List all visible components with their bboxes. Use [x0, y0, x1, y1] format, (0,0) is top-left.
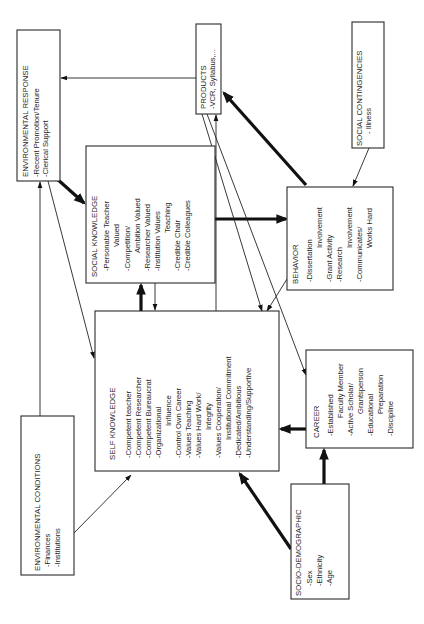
- node-title: PRODUCTS: [199, 65, 208, 109]
- node-item: Institutional Commitment: [224, 356, 233, 440]
- node-item: -Personable Teacher: [102, 201, 111, 271]
- node-item: -Organizational: [154, 406, 163, 458]
- node-item: -Research: [335, 247, 344, 282]
- node-item: Integrity: [204, 403, 213, 430]
- node-item: -Dedicated/Ambitious: [234, 386, 243, 458]
- node-item: Teaching: [163, 203, 172, 233]
- node-title: ENVIRONMENTAL RESPONSE: [21, 65, 30, 177]
- node-item: -Competent teacher: [124, 390, 133, 458]
- node-item: Faculty Member: [336, 363, 345, 418]
- node-item: -Educational: [366, 393, 375, 436]
- node-item: -Communicates/: [355, 226, 364, 282]
- node-environmental-conditions: ENVIRONMENTAL CONDITIONS -Finances -Inst…: [21, 416, 74, 575]
- node-item: -Competition/: [123, 225, 132, 271]
- node-item: -Competent Bureaucrat: [144, 378, 153, 458]
- node-item: -Ethnicity: [315, 555, 324, 586]
- node-self-knowledge: SELF KNOWLEDGE -Competent teacher -Compe…: [95, 311, 279, 471]
- node-item: -Discipline: [386, 401, 395, 436]
- node-item: Valued: [112, 224, 121, 247]
- node-item: Involvement: [315, 206, 324, 248]
- node-item: -Control Own Career: [174, 387, 183, 458]
- node-item: -Values Teaching: [184, 400, 193, 458]
- arrow-behavior-to-self-knowledge: [267, 279, 287, 311]
- node-title: BEHAVIOR: [291, 244, 300, 284]
- node-environmental-response: ENVIRONMENTAL RESPONSE -Recent Promotion…: [17, 30, 60, 181]
- node-item: - Illness: [364, 108, 373, 134]
- node-title: SELF KNOWLEDGE: [108, 388, 117, 460]
- node-behavior: BEHAVIOR -Dissertation Involvement -Gran…: [287, 187, 393, 290]
- model-diagram: ENVIRONMENTAL RESPONSE -Recent Promotion…: [0, 0, 424, 624]
- node-title: SOCIAL KNOWLEDGE: [90, 196, 99, 277]
- node-item: -Active Scholar/: [346, 382, 355, 436]
- node-item: -Grant Activity: [325, 235, 334, 282]
- arrow-env-response-to-social-knowledge: [56, 178, 84, 203]
- node-social-contingencies: SOCIAL CONTINGENCIES - Illness: [352, 22, 384, 148]
- node-item: -Finances: [43, 533, 52, 567]
- node-career: CAREER -Established Faculty Member -Acti…: [306, 350, 413, 448]
- arrow-behavior-to-products: [224, 93, 306, 185]
- node-item: -Institution Values: [153, 211, 162, 271]
- node-item: -Clerical Support: [41, 120, 50, 177]
- node-item: -Values Hard Work/: [194, 392, 203, 458]
- node-item: Works Hard: [365, 208, 374, 248]
- node-item: -Understanding/Supportive: [244, 368, 253, 458]
- node-item: -Researcher Valued: [143, 204, 152, 271]
- node-item: -Values Cooperation/: [214, 386, 223, 458]
- node-title: SOCIO-DEMOGRAPHIC: [294, 509, 303, 596]
- node-item: -Age: [325, 570, 334, 586]
- node-title: CAREER: [312, 405, 321, 438]
- node-item: -Dissertation: [305, 239, 314, 282]
- node-title: ENVIRONMENTAL CONDITIONS: [33, 454, 42, 571]
- node-item: -Credible Chair: [173, 219, 182, 271]
- node-social-knowledge: SOCIAL KNOWLEDGE -Personable Teacher Val…: [86, 146, 215, 283]
- node-item: -Established: [326, 394, 335, 436]
- node-item: Ambition Valued: [133, 198, 142, 253]
- arrow-env-conditions-to-self-knowledge: [74, 475, 131, 533]
- node-item: -VCR, Syllabus,...: [208, 49, 217, 109]
- node-item: -Credible Colleagues: [183, 200, 192, 271]
- node-item: -Institutions: [53, 528, 62, 567]
- node-item: -Recent Promotion/Tenure: [32, 88, 41, 177]
- arrow-social-contingencies-to-behavior: [353, 148, 369, 186]
- arrow-socio-demographic-to-self-knowledge: [240, 474, 291, 549]
- node-title: SOCIAL CONTINGENCIES: [355, 51, 364, 146]
- node-products: PRODUCTS -VCR, Syllabus,...: [196, 24, 221, 114]
- node-item: Involvement: [345, 206, 354, 248]
- node-item: -Competent Researcher: [134, 376, 143, 458]
- node-item: Preparation: [376, 375, 385, 414]
- node-item: Grantsperson: [356, 368, 365, 414]
- node-item: -Sex: [305, 570, 314, 586]
- node-socio-demographic: SOCIO-DEMOGRAPHIC -Sex -Ethnicity -Age: [291, 484, 349, 599]
- node-item: Influence: [164, 395, 173, 426]
